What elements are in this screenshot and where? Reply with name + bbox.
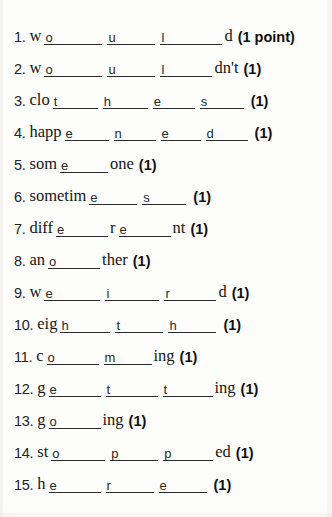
question-number: 12. xyxy=(14,382,33,399)
answer-blank[interactable]: t xyxy=(163,381,213,397)
handwritten-answer: o xyxy=(45,31,52,44)
question-row: 15.here(1) xyxy=(14,462,326,494)
answer-blank[interactable]: e xyxy=(89,189,137,205)
handwritten-answer: p xyxy=(111,447,118,460)
question-list: 1.would(1 point)2.wouldn't(1)3.clothes(1… xyxy=(0,0,332,494)
question-number: 10. xyxy=(14,318,33,335)
word-prefix: eig xyxy=(37,316,57,335)
word-prefix: w xyxy=(30,60,42,79)
handwritten-answer: e xyxy=(90,191,97,204)
answer-blank[interactable]: t xyxy=(106,381,158,397)
question-number: 11. xyxy=(14,350,32,367)
question-row: 8.another(1) xyxy=(14,238,326,270)
answer-blank[interactable]: o xyxy=(49,413,101,429)
word-prefix: diff xyxy=(30,220,54,239)
answer-blank[interactable]: o xyxy=(44,61,102,77)
handwritten-answer: u xyxy=(108,31,115,44)
worksheet-page: 1.would(1 point)2.wouldn't(1)3.clothes(1… xyxy=(0,0,332,517)
answer-blank[interactable]: e xyxy=(44,285,100,301)
answer-blank[interactable]: o xyxy=(51,445,105,461)
handwritten-answer: i xyxy=(106,287,109,300)
handwritten-answer: e xyxy=(120,223,127,236)
answer-blank[interactable]: t xyxy=(115,317,163,333)
handwritten-answer: h xyxy=(61,319,68,332)
points-label: (1) xyxy=(190,222,208,239)
answer-blank[interactable]: e xyxy=(60,157,108,173)
answer-blank[interactable]: o xyxy=(44,29,102,45)
answer-blank[interactable]: s xyxy=(200,93,244,109)
answer-blank[interactable]: p xyxy=(110,445,158,461)
answer-blank[interactable]: h xyxy=(60,317,110,333)
question-number: 1. xyxy=(14,30,26,47)
points-label: (1) xyxy=(232,286,250,303)
answer-blank[interactable]: i xyxy=(105,285,159,301)
question-row: 9.weird(1) xyxy=(14,270,326,302)
answer-blank[interactable]: e xyxy=(49,477,101,493)
question-row: 10.eighth(1) xyxy=(14,302,326,334)
handwritten-answer: e xyxy=(50,383,57,396)
question-number: 9. xyxy=(14,286,26,303)
answer-blank[interactable]: l xyxy=(160,61,212,77)
handwritten-answer: l xyxy=(161,63,164,76)
answer-blank[interactable]: e xyxy=(56,221,108,237)
question-row: 14.stopped(1) xyxy=(14,430,326,462)
handwritten-answer: e xyxy=(160,479,167,492)
question-row: 4.happened(1) xyxy=(14,110,326,142)
answer-blank[interactable]: r xyxy=(106,477,154,493)
points-label: (1) xyxy=(139,158,157,175)
word-suffix: ing xyxy=(154,348,175,367)
answer-blank[interactable]: e xyxy=(161,125,201,141)
points-label: (1) xyxy=(241,382,259,399)
word-suffix: one xyxy=(110,156,134,175)
points-label: (1) xyxy=(193,190,211,207)
answer-blank[interactable]: l xyxy=(160,29,222,45)
answer-blank[interactable]: u xyxy=(107,61,155,77)
handwritten-answer: t xyxy=(116,319,120,332)
answer-blank[interactable]: t xyxy=(53,93,98,109)
question-row: 13.going(1) xyxy=(14,398,326,430)
question-row: 5.someone(1) xyxy=(14,142,326,174)
handwritten-answer: d xyxy=(207,127,214,140)
answer-blank[interactable]: e xyxy=(65,125,109,141)
question-number: 7. xyxy=(14,222,26,239)
answer-blank[interactable]: e xyxy=(159,477,207,493)
handwritten-answer: t xyxy=(54,95,58,108)
answer-blank[interactable]: o xyxy=(47,349,99,365)
word-suffix: nt xyxy=(173,220,186,239)
answer-blank[interactable]: m xyxy=(104,349,152,365)
answer-blank[interactable]: e xyxy=(49,381,101,397)
word-prefix: an xyxy=(30,252,46,271)
handwritten-answer: e xyxy=(66,127,73,140)
answer-blank[interactable]: u xyxy=(107,29,155,45)
answer-blank[interactable]: e xyxy=(119,221,171,237)
answer-blank[interactable]: n xyxy=(114,125,156,141)
points-label: (1) xyxy=(214,478,232,495)
word-prefix: g xyxy=(37,412,45,431)
answer-blank[interactable]: h xyxy=(168,317,216,333)
handwritten-answer: o xyxy=(50,415,57,428)
answer-blank[interactable]: s xyxy=(142,189,186,205)
answer-blank[interactable]: h xyxy=(103,93,148,109)
handwritten-answer: r xyxy=(165,287,169,300)
question-number: 14. xyxy=(14,446,33,463)
answer-blank[interactable]: o xyxy=(48,253,100,269)
handwritten-answer: e xyxy=(45,287,52,300)
answer-blank[interactable]: p xyxy=(163,445,213,461)
answer-blank[interactable]: r xyxy=(164,285,216,301)
question-number: 6. xyxy=(14,190,26,207)
question-number: 13. xyxy=(14,414,33,431)
word-prefix: sometim xyxy=(30,188,87,207)
answer-blank[interactable]: e xyxy=(153,93,195,109)
points-label: (1) xyxy=(180,350,198,367)
handwritten-answer: e xyxy=(57,223,64,236)
word-prefix: som xyxy=(30,156,58,175)
question-number: 3. xyxy=(14,94,26,111)
handwritten-answer: r xyxy=(107,479,111,492)
answer-blank[interactable]: d xyxy=(206,125,248,141)
points-label: (1) xyxy=(223,318,241,335)
question-row: 11.coming(1) xyxy=(14,334,326,366)
word-prefix: st xyxy=(37,444,48,463)
handwritten-answer: o xyxy=(45,63,52,76)
handwritten-answer: l xyxy=(161,31,164,44)
handwritten-answer: m xyxy=(105,351,116,364)
